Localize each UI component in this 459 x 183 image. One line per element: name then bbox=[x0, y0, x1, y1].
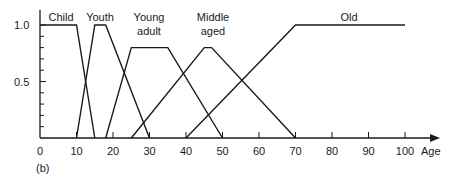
series-label-middle-aged-1: Middle bbox=[197, 11, 229, 23]
curve-middle-aged bbox=[131, 48, 295, 138]
series-label-middle-aged-2: aged bbox=[201, 25, 225, 37]
x-tick-label: 60 bbox=[253, 145, 265, 157]
x-tick-label: 50 bbox=[216, 145, 228, 157]
curve-old bbox=[186, 25, 405, 138]
curve-young-adult bbox=[106, 48, 223, 138]
x-tick-label: 10 bbox=[70, 145, 82, 157]
series-label-young-adult-1: Young bbox=[134, 11, 165, 23]
series-label-old: Old bbox=[340, 11, 357, 23]
x-tick-label: 30 bbox=[143, 145, 155, 157]
series-label-young-adult-2: adult bbox=[137, 25, 161, 37]
y-tick-label-1: 1.0 bbox=[14, 19, 29, 31]
x-tick-label: 0 bbox=[37, 145, 43, 157]
x-tick-label: 100 bbox=[396, 145, 414, 157]
y-ticks bbox=[40, 25, 46, 127]
series-label-child: Child bbox=[48, 11, 73, 23]
curve-youth bbox=[77, 25, 150, 138]
membership-curves bbox=[40, 25, 405, 138]
x-ticks bbox=[77, 132, 406, 138]
x-tick-label: 20 bbox=[107, 145, 119, 157]
series-label-youth: Youth bbox=[86, 11, 114, 23]
x-axis-arrow-icon bbox=[430, 134, 440, 142]
curve-child bbox=[40, 25, 95, 138]
x-axis-label: Age bbox=[421, 145, 441, 157]
fuzzy-membership-chart: 1.0 0.5 0 10 20 30 40 50 60 70 80 90 100… bbox=[0, 0, 459, 183]
panel-label: (b) bbox=[36, 162, 49, 174]
x-tick-label: 70 bbox=[289, 145, 301, 157]
x-tick-label: 40 bbox=[180, 145, 192, 157]
x-tick-label: 80 bbox=[326, 145, 338, 157]
x-tick-labels: 0 10 20 30 40 50 60 70 80 90 100 bbox=[37, 145, 414, 157]
x-tick-label: 90 bbox=[362, 145, 374, 157]
y-tick-label-05: 0.5 bbox=[14, 76, 29, 88]
